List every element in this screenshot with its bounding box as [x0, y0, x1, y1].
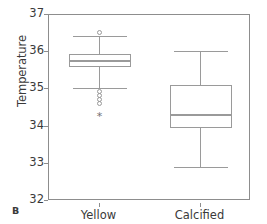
lower-whisker-cap	[174, 167, 228, 168]
box-plot-yellow: *	[69, 15, 131, 199]
x-axis-tick-labels: YellowCalcified	[48, 203, 250, 223]
lower-whisker-line	[99, 67, 100, 87]
x-tick-mark	[99, 203, 100, 207]
extreme-outlier-marker: *	[96, 112, 104, 122]
boxplot-figure: Temperature 323334353637 * YellowCalcifi…	[0, 0, 267, 224]
y-tick-mark	[44, 88, 48, 89]
x-tick-label-yellow: Yellow	[81, 208, 116, 222]
outlier-marker	[97, 30, 102, 35]
median-line	[170, 114, 232, 115]
outlier-marker	[97, 101, 102, 106]
upper-whisker-cap	[73, 36, 127, 37]
box-iqr	[170, 85, 232, 129]
median-line	[69, 60, 131, 61]
y-tick-label: 37	[24, 8, 44, 20]
upper-whisker-line	[200, 51, 201, 85]
plot-area: *	[48, 14, 250, 200]
y-tick-mark	[44, 163, 48, 164]
y-tick-mark	[44, 14, 48, 15]
box-plot-calcified	[170, 15, 232, 199]
y-axis-tick-labels: 323334353637	[22, 0, 44, 224]
lower-whisker-line	[200, 128, 201, 166]
y-tick-mark	[44, 126, 48, 127]
y-tick-label: 34	[24, 120, 44, 132]
upper-whisker-cap	[174, 51, 228, 52]
y-tick-mark	[44, 51, 48, 52]
y-tick-label: 32	[24, 194, 44, 206]
y-tick-label: 35	[24, 82, 44, 94]
upper-whisker-line	[99, 36, 100, 54]
y-tick-label: 36	[24, 45, 44, 57]
x-tick-mark	[200, 203, 201, 207]
y-tick-mark	[44, 200, 48, 201]
plot-inner: *	[49, 15, 249, 199]
x-tick-label-calcified: Calcified	[175, 208, 224, 222]
y-tick-label: 33	[24, 157, 44, 169]
panel-letter: B	[12, 205, 19, 216]
